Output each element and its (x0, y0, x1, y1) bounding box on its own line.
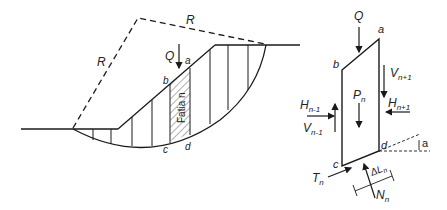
fb-point-d: d (381, 139, 388, 151)
vn-1-left-label: Vn-1 (303, 121, 323, 137)
hn1-right-label: Hn+1 (388, 96, 410, 112)
radius-lines (73, 18, 265, 128)
vn1-right-label: Vn+1 (390, 66, 412, 82)
angle-label: a (422, 137, 429, 149)
point-a-label: a (185, 55, 191, 66)
hn-1-left-label: Hn-1 (300, 98, 320, 114)
q-label: Q (354, 9, 363, 23)
fb-point-c: c (333, 158, 339, 170)
point-c-label: c (163, 144, 168, 155)
slice-label: Fatia n (176, 92, 187, 123)
slope-section (21, 45, 300, 147)
pn-label: Pn (353, 88, 366, 104)
nn-label: Nn (376, 188, 390, 204)
point-b-label: b (163, 75, 169, 86)
load-label: Q (165, 49, 174, 63)
radius-label-top: R (186, 13, 195, 27)
delta-l-label: ΔLn (368, 162, 389, 180)
slope-stability-diagram: R R Q a b c d Fatia n Q a b c d Pn Vn+1 … (0, 0, 447, 210)
tn-label: Tn (312, 171, 324, 187)
fb-point-a: a (378, 23, 384, 35)
radius-label-left: R (97, 55, 106, 69)
point-d-label: d (185, 141, 191, 152)
fb-point-b: b (333, 58, 339, 70)
tn-arrow (328, 168, 351, 177)
